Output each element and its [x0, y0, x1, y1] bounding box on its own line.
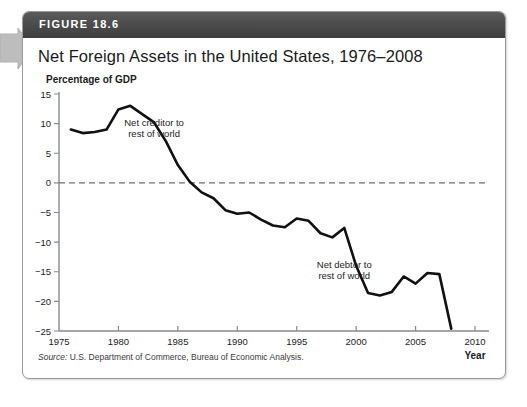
x-tick-marks — [118, 326, 475, 331]
y-tick-marks — [54, 94, 59, 331]
creditor-annotation-line2: rest of world — [128, 128, 180, 139]
source-prefix: Source: — [38, 352, 67, 362]
x-tick-label: 1980 — [108, 336, 129, 347]
y-tick-label: −10 — [35, 237, 51, 248]
y-tick-label: 10 — [40, 118, 51, 129]
x-tick-label: 1990 — [227, 336, 248, 347]
x-tick-label: 2010 — [464, 336, 485, 347]
y-tick-label-group: −25−20−15−10−5051015 — [35, 89, 51, 337]
x-tick-label: 1995 — [286, 336, 307, 347]
x-tick-label: 1985 — [167, 336, 188, 347]
y-tick-label: −25 — [35, 326, 51, 337]
y-tick-label: 5 — [46, 148, 51, 159]
x-tick-label: 1975 — [48, 336, 69, 347]
source-text: U.S. Department of Commerce, Bureau of E… — [67, 352, 303, 362]
line-chart-svg: −25−20−15−10−5051015 1975198019851990199… — [23, 12, 506, 379]
creditor-annotation-line1: Net creditor to — [124, 117, 184, 128]
debtor-annotation-line1: Net debtor to — [317, 259, 372, 270]
chart-plot-area: −25−20−15−10−5051015 1975198019851990199… — [23, 12, 506, 379]
x-tick-label: 2000 — [346, 336, 367, 347]
x-tick-label: 2005 — [405, 336, 426, 347]
y-tick-label: −5 — [40, 207, 51, 218]
y-tick-label: −15 — [35, 266, 51, 277]
x-axis-title: Year — [464, 350, 485, 361]
debtor-annotation-line2: rest of world — [318, 270, 370, 281]
y-tick-label: 0 — [46, 177, 51, 188]
x-tick-label-group: 19751980198519901995200020052010 — [48, 336, 485, 347]
source-note: Source: U.S. Department of Commerce, Bur… — [38, 352, 304, 362]
y-tick-label: 15 — [40, 89, 51, 100]
net-foreign-assets-series — [71, 106, 451, 329]
figure-card: FIGURE 18.6 Net Foreign Assets in the Un… — [22, 11, 506, 379]
y-tick-label: −20 — [35, 296, 51, 307]
